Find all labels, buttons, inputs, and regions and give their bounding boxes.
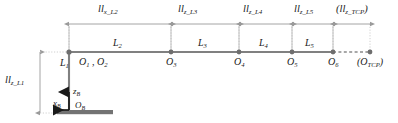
label-ll-z-l1: llz_L1 [5,75,24,86]
joint-o5 [290,50,295,55]
label-ll-z-tcp: (llz_TCP) [336,4,368,15]
label-o1-o2: O1 , O2 [79,57,108,67]
label-zb-axis: zB [73,87,80,96]
joint-o6 [331,50,336,55]
label-o5: O5 [287,57,298,67]
label-ll-z-l5: llz_L5 [294,4,313,15]
label-ll-z-l3: llz_L3 [178,4,197,15]
label-o3: O3 [166,57,177,67]
joint-o3 [169,50,174,55]
label-ob-origin: OB [75,101,85,110]
label-l3: L3 [198,38,207,48]
joint-o-tcp [368,50,373,55]
joint-o1-o2 [66,49,71,54]
diagram-canvas: llx_L2 llz_L3 llz_L4 llz_L5 (llz_TCP) ll… [0,0,398,123]
joint-o4 [237,50,242,55]
label-l5: L5 [305,38,314,48]
label-l2: L2 [113,38,122,48]
label-l4: L4 [259,38,268,48]
label-xb-axis: xB [53,99,61,108]
label-o6: O6 [328,57,339,67]
label-o4: O4 [234,57,245,67]
label-o-tcp: (OTCP) [357,57,383,67]
label-ll-x-l2: llx_L2 [98,4,118,15]
label-l1: L1 [60,58,69,68]
label-ll-z-l4: llz_L4 [243,4,262,15]
